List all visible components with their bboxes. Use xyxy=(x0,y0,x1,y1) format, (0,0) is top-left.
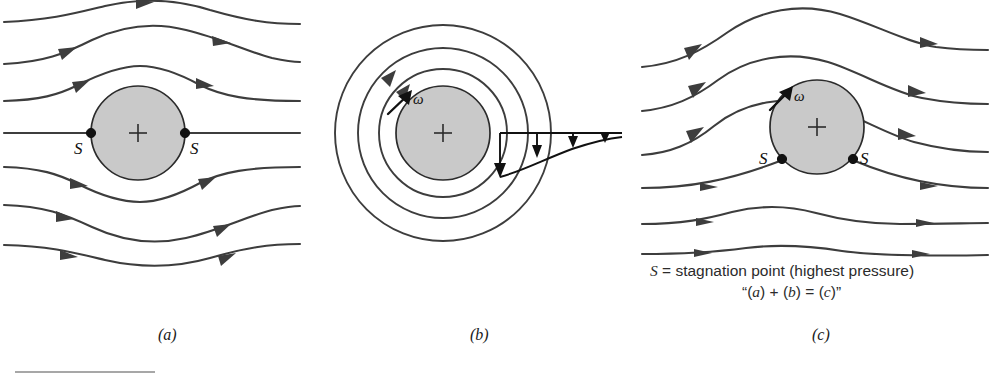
flow-figure-canvas: S S (a) ω xyxy=(0,0,991,383)
flow-arrow-icon xyxy=(212,36,231,46)
figure-caption: S = stagnation point (highest pressure) … xyxy=(650,262,914,300)
flow-arrow-icon xyxy=(58,47,77,60)
arrow-head-icon xyxy=(568,136,578,148)
panel-a: S S (a) xyxy=(4,0,300,344)
streamline xyxy=(4,205,300,241)
caption-line-2: “(a) + (b) = (c)” xyxy=(742,283,841,300)
stagnation-label: S xyxy=(759,149,768,168)
caption-line-1-rest: = stagnation point (highest pressure) xyxy=(658,262,914,279)
figure-root: S S (a) ω xyxy=(0,0,991,383)
omega-label-b: ω xyxy=(413,91,424,107)
flow-arrow-icon xyxy=(908,85,926,97)
stagnation-point-marker xyxy=(848,154,857,163)
arrow-head-icon xyxy=(532,145,542,158)
stagnation-label: S xyxy=(860,149,869,168)
flow-arrow-icon xyxy=(700,183,718,191)
panel-label-a: (a) xyxy=(158,326,177,344)
panel-label-c: (c) xyxy=(812,326,830,344)
streamline xyxy=(4,26,300,64)
flow-arrow-icon xyxy=(916,219,934,227)
stagnation-label: S xyxy=(74,139,83,158)
flow-arrow-icon xyxy=(196,78,214,89)
stagnation-point-marker xyxy=(86,128,95,137)
panel-label-b: (b) xyxy=(470,326,489,344)
stagnation-point-marker xyxy=(777,154,786,163)
caption-plus: ) + ( xyxy=(760,283,789,300)
velocity-profile-envelope xyxy=(500,137,622,177)
flow-arrow-icon xyxy=(56,211,74,222)
flow-arrow-icon xyxy=(213,224,231,237)
velocity-profile-b xyxy=(494,132,622,178)
flow-arrow-icon xyxy=(898,128,916,140)
flow-arrow-icon xyxy=(684,44,702,60)
flow-arrow-icon xyxy=(198,177,216,190)
caption-line-1: S = stagnation point (highest pressure) xyxy=(650,262,914,279)
flow-arrow-icon xyxy=(694,249,712,257)
flow-arrow-icon xyxy=(72,80,90,93)
caption-equals: ) = ( xyxy=(796,283,825,300)
stagnation-point-marker xyxy=(180,128,189,137)
flow-arrow-icon xyxy=(912,250,930,258)
streamline xyxy=(4,244,300,266)
streamline xyxy=(4,1,300,24)
caption-quote-close: )” xyxy=(831,283,841,300)
streamline xyxy=(642,246,988,256)
panel-b: ω (b) xyxy=(335,25,622,344)
stagnation-label: S xyxy=(190,139,199,158)
omega-label-c: ω xyxy=(794,88,805,104)
streamline xyxy=(642,207,988,224)
